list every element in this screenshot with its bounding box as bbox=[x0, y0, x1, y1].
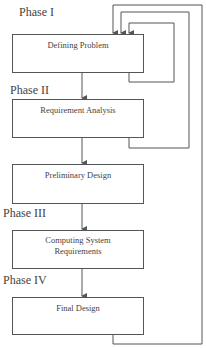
box-label: Requirement Analysis bbox=[40, 105, 115, 115]
box-label: Final Design bbox=[56, 303, 100, 313]
phase-2-label: Phase II bbox=[10, 83, 49, 98]
box-preliminary-design: Preliminary Design bbox=[12, 164, 144, 204]
box-defining-problem: Defining Problem bbox=[12, 34, 144, 73]
phase-4-label: Phase IV bbox=[3, 273, 47, 288]
box-label-line-1: Computing System bbox=[13, 235, 143, 246]
box-label-line-2: Requirements bbox=[13, 246, 143, 257]
box-computing-system-requirements: Computing System Requirements bbox=[12, 230, 144, 269]
box-final-design: Final Design bbox=[12, 297, 144, 335]
box-requirement-analysis: Requirement Analysis bbox=[12, 99, 144, 138]
box-label: Preliminary Design bbox=[45, 170, 111, 180]
box-label: Defining Problem bbox=[47, 40, 108, 50]
phase-1-label: Phase I bbox=[19, 5, 54, 20]
phase-3-label: Phase III bbox=[3, 206, 46, 221]
